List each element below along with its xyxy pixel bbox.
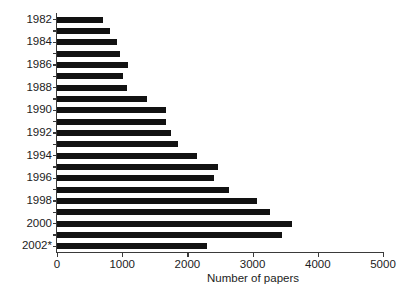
x-axis-title: Number of papers	[0, 272, 418, 284]
y-axis-tick-label: 1992	[10, 127, 52, 139]
y-axis-tick-label: 1994	[10, 150, 52, 162]
bar-row	[57, 82, 383, 93]
bar-chart: 1982198419861988199019921994199619982000…	[0, 0, 418, 293]
bar-row	[57, 139, 383, 150]
bar	[57, 73, 123, 79]
y-axis-tick	[53, 189, 57, 190]
bar-row	[57, 241, 383, 252]
y-axis-tick-label: 2002*	[10, 240, 52, 252]
bar	[57, 107, 166, 113]
bar-row	[57, 48, 383, 59]
bar	[57, 17, 103, 23]
y-axis-tick	[53, 42, 57, 43]
bar-row	[57, 14, 383, 25]
bar	[57, 175, 214, 181]
bar-row	[57, 150, 383, 161]
bar-row	[57, 229, 383, 240]
bar-row	[57, 161, 383, 172]
y-axis-tick	[53, 64, 57, 65]
bar	[57, 62, 128, 68]
x-axis-tick	[57, 252, 58, 257]
x-axis-tick	[383, 252, 384, 257]
y-axis-tick	[53, 178, 57, 179]
y-axis-tick	[53, 98, 57, 99]
bar-row	[57, 173, 383, 184]
y-axis-tick-label: 1986	[10, 59, 52, 71]
y-axis-tick	[53, 144, 57, 145]
y-axis-tick	[53, 76, 57, 77]
y-axis-tick	[53, 110, 57, 111]
plot-area	[57, 14, 383, 252]
y-axis-tick	[53, 19, 57, 20]
x-axis-tick-label: 2000	[175, 258, 201, 270]
bar	[57, 164, 218, 170]
bar	[57, 187, 229, 193]
bar	[57, 198, 257, 204]
bar-row	[57, 25, 383, 36]
y-axis-tick	[53, 30, 57, 31]
x-axis-tick-label: 0	[54, 258, 60, 270]
bar	[57, 119, 166, 125]
y-axis-tick-labels: 1982198419861988199019921994199619982000…	[6, 14, 52, 252]
bar-row	[57, 116, 383, 127]
y-axis-tick-label: 1990	[10, 104, 52, 116]
bar	[57, 221, 292, 227]
x-axis-tick-label: 4000	[305, 258, 331, 270]
x-axis-title-label: Number of papers	[207, 272, 299, 284]
y-axis-tick-label: 1984	[10, 36, 52, 48]
y-axis-tick	[53, 223, 57, 224]
bar-row	[57, 218, 383, 229]
bar	[57, 28, 110, 34]
bar	[57, 96, 147, 102]
x-axis-tick	[318, 252, 319, 257]
x-axis-tick-label: 5000	[370, 258, 396, 270]
bar-row	[57, 71, 383, 82]
x-axis-tick	[187, 252, 188, 257]
x-axis-tick-label: 3000	[240, 258, 266, 270]
y-axis-tick	[53, 246, 57, 247]
bar	[57, 141, 178, 147]
y-axis-tick	[53, 53, 57, 54]
bar	[57, 130, 171, 136]
y-axis-tick-label: 1998	[10, 195, 52, 207]
bar	[57, 153, 197, 159]
y-axis-tick	[53, 121, 57, 122]
bar-row	[57, 184, 383, 195]
bar-row	[57, 127, 383, 138]
y-axis-tick	[53, 155, 57, 156]
bar	[57, 232, 282, 238]
y-axis-tick	[53, 212, 57, 213]
x-axis-tick-label: 1000	[109, 258, 135, 270]
bar-row	[57, 207, 383, 218]
bar-row	[57, 105, 383, 116]
y-axis-tick	[53, 200, 57, 201]
bar-row	[57, 37, 383, 48]
y-axis-tick-label: 1982	[10, 14, 52, 26]
y-axis-tick	[53, 132, 57, 133]
bar-row	[57, 195, 383, 206]
bar-row	[57, 59, 383, 70]
y-axis-tick-label: 2000	[10, 218, 52, 230]
bar	[57, 209, 270, 215]
bar	[57, 51, 120, 57]
x-axis-tick	[253, 252, 254, 257]
y-axis-tick	[53, 166, 57, 167]
bar	[57, 243, 207, 249]
y-axis-tick	[53, 234, 57, 235]
y-axis-tick-label: 1996	[10, 172, 52, 184]
bar	[57, 39, 117, 45]
bar	[57, 85, 127, 91]
x-axis-tick	[122, 252, 123, 257]
y-axis-tick	[53, 87, 57, 88]
y-axis-tick-label: 1988	[10, 82, 52, 94]
bar-row	[57, 93, 383, 104]
